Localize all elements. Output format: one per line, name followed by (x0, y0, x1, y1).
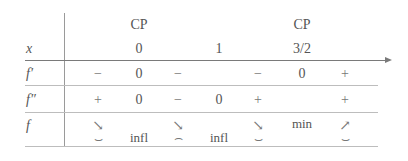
fprime-row-label: f′ (26, 66, 33, 82)
sign-cell: 0 (136, 92, 143, 108)
sign-cell: 0 (299, 66, 306, 82)
x-value: 1 (216, 41, 223, 57)
sign-cell: − (94, 66, 102, 82)
sign-cell: + (94, 92, 102, 108)
sign-cell: + (341, 66, 349, 82)
row-divider (25, 146, 378, 147)
critical-point-label: CP (130, 17, 147, 33)
min-label: min (292, 116, 312, 132)
row-divider (25, 112, 378, 113)
concave-up-icon: ⌣ (341, 132, 350, 148)
critical-point-label: CP (293, 17, 310, 33)
sign-cell: − (174, 66, 182, 82)
inflection-label: infl (130, 130, 148, 146)
row-divider (25, 85, 378, 86)
inflection-label: infl (210, 130, 228, 146)
sign-cell: + (341, 92, 349, 108)
concave-up-icon: ⌣ (254, 132, 263, 148)
row-label-divider (64, 13, 65, 147)
sign-cell: − (174, 92, 182, 108)
x-value: 0 (136, 41, 143, 57)
axis-arrow-icon (385, 57, 392, 63)
f-row-label: f (26, 118, 30, 134)
x-row-label: x (26, 41, 32, 57)
sign-cell: 0 (216, 92, 223, 108)
fdoubleprime-row-label: f″ (26, 92, 36, 108)
concave-down-icon: ⌢ (174, 130, 183, 146)
sign-cell: − (254, 66, 262, 82)
x-value: 3/2 (293, 41, 311, 57)
x-axis-line (25, 60, 387, 61)
sign-cell: 0 (136, 66, 143, 82)
sign-cell: + (254, 92, 262, 108)
concave-up-icon: ⌣ (94, 132, 103, 148)
